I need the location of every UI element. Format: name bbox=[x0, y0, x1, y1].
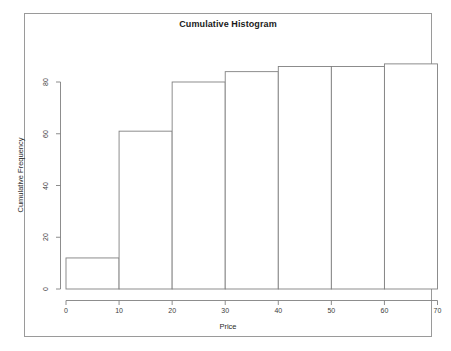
x-tick-label: 10 bbox=[104, 307, 134, 314]
plot-frame-border bbox=[24, 13, 432, 337]
chart-figure: Cumulative Histogram 010203040506070 020… bbox=[0, 0, 451, 351]
x-tick-label: 60 bbox=[369, 307, 399, 314]
x-tick-label: 70 bbox=[423, 307, 451, 314]
y-tick-label: 80 bbox=[42, 70, 49, 94]
y-tick-label: 60 bbox=[42, 122, 49, 146]
x-tick-label: 30 bbox=[210, 307, 240, 314]
x-axis-label: Price bbox=[24, 322, 432, 331]
x-tick-label: 50 bbox=[316, 307, 346, 314]
x-tick-label: 40 bbox=[263, 307, 293, 314]
x-tick-label: 20 bbox=[157, 307, 187, 314]
y-tick-label: 0 bbox=[42, 277, 49, 301]
y-tick-label: 40 bbox=[42, 174, 49, 198]
y-axis-label: Cumulative Frequency bbox=[16, 137, 25, 212]
chart-title: Cumulative Histogram bbox=[24, 19, 432, 29]
y-tick-label: 20 bbox=[42, 225, 49, 249]
x-tick-label: 0 bbox=[51, 307, 81, 314]
